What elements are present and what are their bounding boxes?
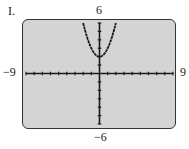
graph-plot (0, 0, 189, 149)
